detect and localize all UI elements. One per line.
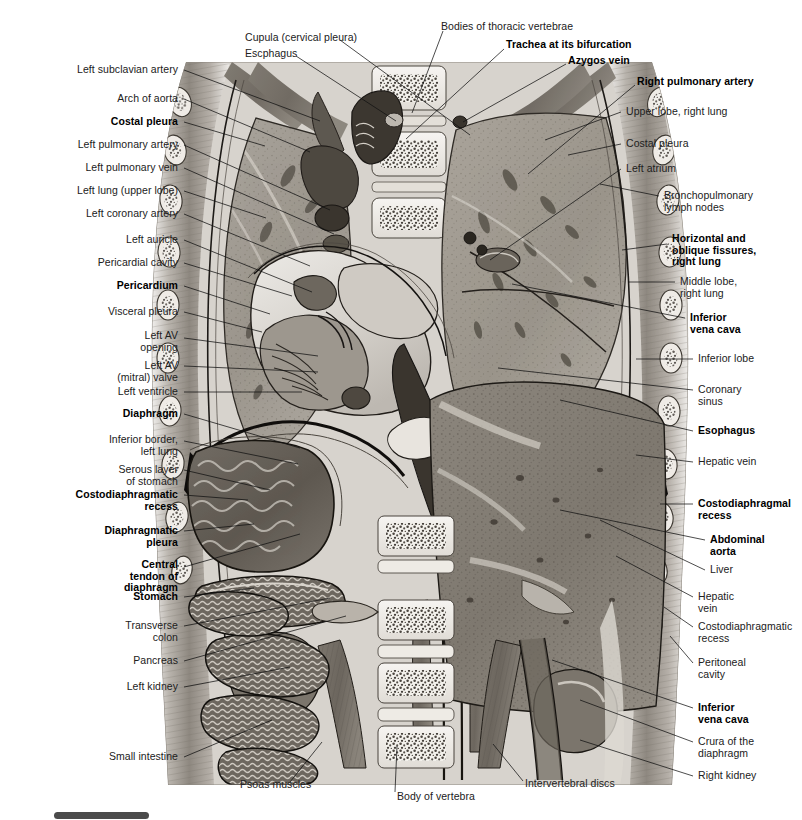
label-right-kidney: Right kidney bbox=[698, 770, 756, 782]
label-left-coronary-artery: Left coronary artery bbox=[86, 208, 178, 220]
label-visceral-pleura: Visceral pleura bbox=[108, 306, 178, 318]
label-pericardium: Pericardium bbox=[117, 280, 178, 292]
bottom-bar[interactable] bbox=[54, 812, 149, 819]
label-pericardial-cavity: Pericardial cavity bbox=[98, 257, 178, 269]
label-pancreas: Pancreas bbox=[133, 655, 178, 667]
label-left-subclavian-artery: Left subclavian artery bbox=[77, 64, 178, 76]
label-inferior-vena-cava: Inferior vena cava bbox=[698, 702, 749, 725]
label-escphagus: Escphagus bbox=[245, 48, 297, 60]
label-left-ventricle: Left ventricle bbox=[118, 386, 178, 398]
label-body-of-vertebra: Body of vertebra bbox=[397, 791, 475, 803]
label-left-av-opening: Left AV opening bbox=[140, 330, 178, 353]
label-right-pulmonary-artery: Right pulmonary artery bbox=[637, 76, 754, 88]
label-left-atrium: Left atrium bbox=[626, 163, 676, 175]
label-abdominal-aorta: Abdominal aorta bbox=[710, 534, 765, 557]
label-inferior-vena-cava: Inferior vena cava bbox=[690, 312, 741, 335]
label-coronary-sinus: Coronary sinus bbox=[698, 384, 742, 407]
label-arch-of-aorta: Arch of aorta bbox=[117, 93, 178, 105]
label-middle-lobe-right-lung: Middle lobe, right lung bbox=[680, 276, 737, 299]
label-peritoneal-cavity: Peritoneal cavity bbox=[698, 657, 746, 680]
label-inferior-lobe: Inferior lobe bbox=[698, 353, 754, 365]
label-psoas-muscles: Psoas muscles bbox=[240, 779, 311, 791]
label-diaphragmatic-pleura: Diaphragmatic pleura bbox=[104, 525, 178, 548]
label-costal-pleura: Costal pleura bbox=[626, 138, 689, 150]
label-hepatic-vein: Hepatic vein bbox=[698, 456, 756, 468]
label-left-lung-upper-lobe: Left lung (upper lobe) bbox=[77, 185, 178, 197]
label-esophagus: Esophagus bbox=[698, 425, 755, 437]
anatomy-plate: Cupula (cervical pleura)EscphagusBodies … bbox=[0, 0, 802, 820]
label-serous-layer-of-stomach: Serous layer of stomach bbox=[118, 464, 178, 487]
label-left-pulmonary-vein: Left pulmonary vein bbox=[85, 162, 178, 174]
label-costodiaphragmatic-recess: Costodiaphragmatic recess bbox=[76, 489, 178, 512]
label-stomach: Stomach bbox=[133, 591, 178, 603]
label-left-pulmonary-artery: Left pulmonary artery bbox=[78, 139, 178, 151]
label-central-tendon-of-diaphragm: Central tendon of diaphragm bbox=[124, 559, 178, 594]
label-bronchopulmonary-lymph-nodes: Bronchopulmonary lymph nodes bbox=[664, 190, 753, 213]
label-costodiaphragmatic-recess: Costodiaphragmatic recess bbox=[698, 621, 792, 644]
label-transverse-colon: Transverse colon bbox=[125, 620, 178, 643]
label-liver: Liver bbox=[710, 564, 733, 576]
label-left-kidney: Left kidney bbox=[127, 681, 178, 693]
label-costodiaphragmal-recess: Costodiaphragmal recess bbox=[698, 498, 791, 521]
label-small-intestine: Small intestine bbox=[109, 751, 178, 763]
label-trachea-at-its-bifurcation: Trachea at its bifurcation bbox=[506, 39, 632, 51]
label-left-auricle: Left auricle bbox=[126, 234, 178, 246]
label-hepatic-vein: Hepatic vein bbox=[698, 591, 734, 614]
label-left-av-mitral-valve: Left AV (mitral) valve bbox=[117, 360, 178, 383]
label-bodies-of-thoracic-vertebrae: Bodies of thoracic vertebrae bbox=[441, 21, 573, 33]
label-diaphragm: Diaphragm bbox=[123, 408, 178, 420]
label-inferior-border-left-lung: Inferior border, left lung bbox=[109, 434, 178, 457]
label-azygos-vein: Azygos vein bbox=[568, 55, 630, 67]
label-costal-pleura: Costal pleura bbox=[111, 116, 178, 128]
label-intervertebral-discs: Intervertebral discs bbox=[525, 778, 615, 790]
label-horizontal-and-oblique-fissures-right-lung: Horizontal and oblique fissures, right l… bbox=[672, 233, 756, 268]
label-upper-lobe-right-lung: Upper lobe, right lung bbox=[626, 106, 728, 118]
label-crura-of-the-diaphragm: Crura of the diaphragm bbox=[698, 736, 754, 759]
label-cupula-cervical-pleura: Cupula (cervical pleura) bbox=[245, 32, 357, 44]
